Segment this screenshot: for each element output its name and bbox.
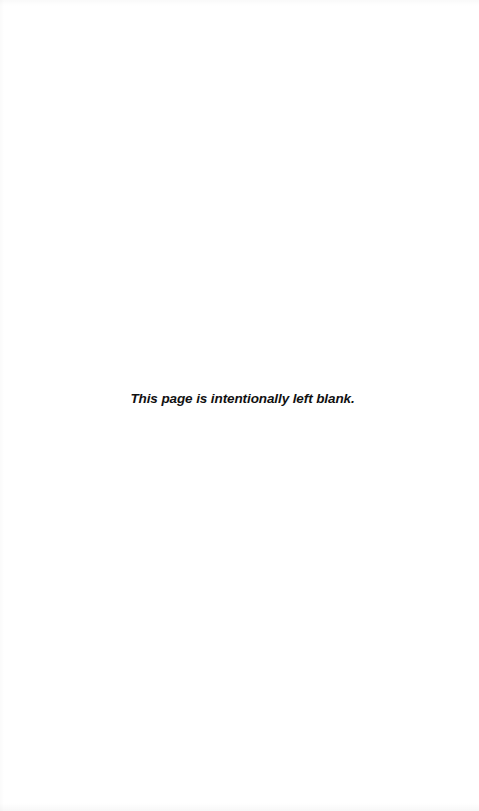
scan-edge-top bbox=[0, 0, 479, 6]
blank-page-notice: This page is intentionally left blank. bbox=[0, 389, 479, 409]
scan-edge-bottom bbox=[0, 803, 479, 811]
document-page: This page is intentionally left blank. bbox=[0, 0, 479, 811]
